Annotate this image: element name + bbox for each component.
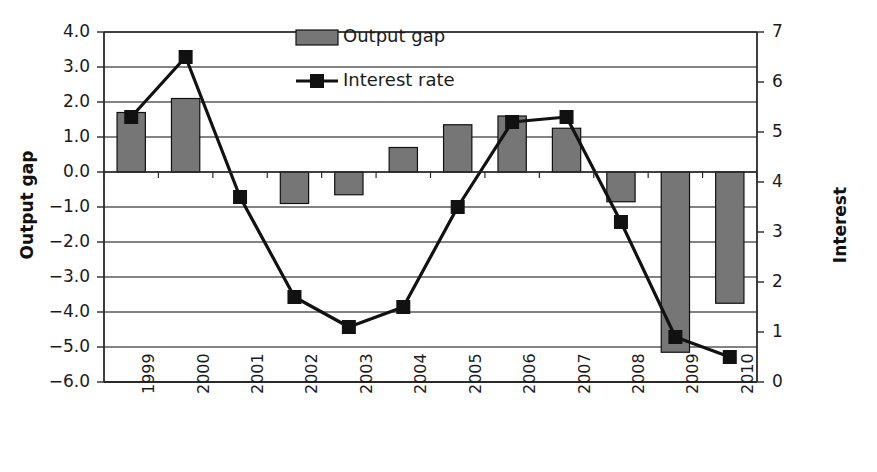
legend-marker-interest-rate (310, 74, 324, 88)
y-axis-left-tick-label: −2.0 (34, 231, 90, 251)
bar (280, 172, 308, 204)
interest-rate-marker (668, 330, 682, 344)
y-axis-left-tick-label: −4.0 (34, 301, 90, 321)
interest-rate-marker (505, 115, 519, 129)
y-axis-right-tick-label: 5 (772, 121, 812, 141)
y-axis-right-tick-label: 0 (772, 371, 812, 391)
chart-container: Output gap Interest 4.03.02.01.00.0−1.0−… (0, 0, 877, 472)
bar (661, 172, 689, 352)
x-axis-tick-label: 2006 (520, 353, 539, 394)
x-axis-tick-label: 1999 (139, 353, 158, 394)
bar (389, 148, 417, 173)
x-axis-tick-label: 2005 (466, 353, 485, 394)
interest-rate-marker (233, 190, 247, 204)
bar (716, 172, 744, 303)
legend-label-output-gap: Output gap (343, 25, 445, 46)
x-axis-tick-label: 2002 (302, 353, 321, 394)
x-axis-tick-label: 2004 (411, 353, 430, 394)
y-axis-left-tick-label: −1.0 (34, 196, 90, 216)
y-axis-right-tick-label: 3 (772, 221, 812, 241)
y-axis-left-tick-label: 2.0 (34, 91, 90, 111)
x-axis-tick-label: 2000 (194, 353, 213, 394)
bar (607, 172, 635, 202)
interest-rate-marker (614, 215, 628, 229)
y-axis-left-tick-label: −3.0 (34, 266, 90, 286)
interest-rate-marker (723, 350, 737, 364)
interest-rate-marker (560, 110, 574, 124)
interest-rate-marker (179, 50, 193, 64)
y-axis-right-tick-label: 7 (772, 21, 812, 41)
interest-rate-marker (287, 290, 301, 304)
x-axis-tick-label: 2009 (683, 353, 702, 394)
bar (444, 125, 472, 172)
legend-label-interest-rate: Interest rate (343, 69, 455, 90)
y-axis-left-tick-label: 4.0 (34, 21, 90, 41)
x-axis-tick-label: 2001 (248, 353, 267, 394)
y-axis-right-tick-label: 1 (772, 321, 812, 341)
y-axis-left-tick-label: 0.0 (34, 161, 90, 181)
x-axis-tick-label: 2007 (575, 353, 594, 394)
interest-rate-marker (342, 320, 356, 334)
x-axis-tick-label: 2008 (629, 353, 648, 394)
bar (171, 99, 199, 173)
interest-rate-marker (396, 300, 410, 314)
interest-rate-marker (124, 110, 138, 124)
legend-markers (296, 30, 338, 88)
y-axis-left-tick-label: 1.0 (34, 126, 90, 146)
y-axis-right-tick-label: 6 (772, 71, 812, 91)
y-axis-left-tick-label: −5.0 (34, 336, 90, 356)
bar (335, 172, 363, 195)
legend-swatch-output-gap (296, 30, 338, 45)
y-axis-right-tick-label: 4 (772, 171, 812, 191)
y-axis-right-tick-label: 2 (772, 271, 812, 291)
y-axis-left-tick-label: −6.0 (34, 371, 90, 391)
x-axis-tick-label: 2003 (357, 353, 376, 394)
y-axis-left-tick-label: 3.0 (34, 56, 90, 76)
interest-rate-marker (451, 200, 465, 214)
x-axis-tick-label: 2010 (738, 353, 757, 394)
y-axis-right-title: Interest (830, 155, 850, 295)
